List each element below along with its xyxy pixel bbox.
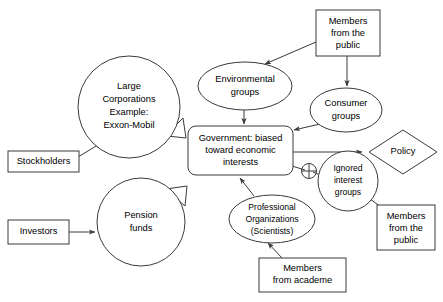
node-investors[interactable]: Investors (8, 220, 69, 244)
node-members-public-top-line-0: Members (329, 16, 368, 26)
node-members-from-the-public-right[interactable]: Members from the public (377, 205, 435, 250)
node-ignored-interest-groups[interactable]: Ignored interest groups (318, 151, 378, 211)
node-ignored-interest-groups-line-1: interest (334, 175, 363, 185)
node-members-public-top-line-1: from the (331, 28, 365, 38)
node-government[interactable]: Government: biased toward economic inter… (188, 126, 293, 175)
node-environmental-groups-line-1: groups (231, 87, 260, 97)
node-large-corporations[interactable]: Large Corporations Example: Exxon-Mobil (78, 56, 180, 158)
node-investors-label: Investors (20, 226, 58, 236)
influence-diagram: Large Corporations Example: Exxon-Mobil … (0, 0, 443, 302)
node-professional-organizations-line-2: (Scientists) (251, 226, 294, 236)
node-stockholders-label: Stockholders (17, 156, 71, 166)
node-large-corporations-line-2: Example: (110, 107, 149, 117)
node-environmental-groups-line-0: Environmental (215, 74, 274, 84)
node-stockholders[interactable]: Stockholders (8, 151, 79, 172)
node-pension-funds-line-1: funds (130, 223, 153, 233)
edge-members-public-top-to-environmental-groups (265, 42, 316, 64)
node-large-corporations-line-3: Exxon-Mobil (103, 120, 154, 130)
diagram-canvas: Large Corporations Example: Exxon-Mobil … (0, 0, 443, 302)
node-members-public-right-line-0: Members (387, 211, 426, 221)
node-professional-organizations-line-1: Organizations (245, 214, 298, 224)
edge-professional-organizations-to-government (240, 178, 254, 196)
node-professional-organizations[interactable]: Professional Organizations (Scientists) (229, 195, 315, 243)
node-pension-funds[interactable]: Pension funds (97, 178, 185, 266)
node-environmental-groups[interactable]: Environmental groups (198, 62, 292, 110)
node-government-line-0: Government: biased (199, 133, 283, 143)
edge-members-academe-to-professional-organizations (268, 243, 282, 258)
node-policy[interactable]: Policy (369, 130, 437, 174)
node-large-corporations-line-0: Large (117, 81, 141, 91)
node-ignored-interest-groups-line-0: Ignored (333, 163, 362, 173)
node-pension-funds-line-0: Pension (124, 210, 158, 220)
node-members-from-the-public-top[interactable]: Members from the public (316, 10, 380, 56)
node-consumer-groups[interactable]: Consumer groups (310, 88, 382, 132)
node-consumer-groups-line-0: Consumer (325, 98, 368, 108)
node-large-corporations-line-1: Corporations (102, 94, 156, 104)
node-members-academe-line-0: Members (283, 263, 322, 273)
node-members-from-academe[interactable]: Members from academe (259, 258, 346, 292)
node-ignored-interest-groups-line-2: groups (335, 187, 361, 197)
node-professional-organizations-line-0: Professional (248, 202, 295, 212)
node-members-public-right-line-1: from the (389, 223, 423, 233)
crossed-circle-icon (302, 164, 317, 179)
node-policy-label: Policy (391, 146, 416, 156)
node-members-public-right-line-2: public (394, 235, 419, 245)
node-members-public-top-line-2: public (336, 40, 361, 50)
edge-consumer-groups-to-government (294, 124, 320, 130)
node-consumer-groups-line-1: groups (332, 111, 361, 121)
node-government-line-1: toward economic (205, 145, 276, 155)
node-members-academe-line-1: from academe (273, 275, 332, 285)
node-government-line-2: interests (223, 157, 258, 167)
